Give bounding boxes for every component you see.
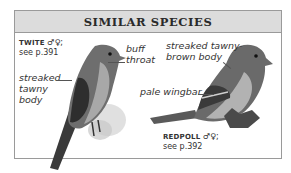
- twite-sex-symbols: ♂♀;: [47, 38, 63, 47]
- redpoll-caption: REDPOLL ♂♀; see p.392: [163, 132, 219, 152]
- redpoll-name: REDPOLL: [163, 133, 200, 141]
- label-pale-wingbar: pale wingbar: [140, 86, 202, 97]
- label-buff-throat: buff throat: [126, 43, 155, 65]
- label-streaked-tawny-body: streaked tawny body: [19, 72, 61, 105]
- twite-illustration: [40, 38, 140, 173]
- leader-pale-wingbar: [198, 94, 214, 95]
- panel-title: SIMILAR SPECIES: [84, 15, 213, 29]
- twite-caption: TWITE ♂♀; see p.391: [19, 38, 63, 58]
- leader-buff-throat: [108, 62, 125, 63]
- twite-page-ref: see p.391: [19, 48, 58, 57]
- leader-streaked-tawny-body: [56, 80, 72, 81]
- redpoll-page-ref: see p.392: [163, 142, 202, 151]
- panel-header: SIMILAR SPECIES: [15, 11, 281, 33]
- label-streaked-tawny-brown-body: streaked tawny- brown body: [166, 40, 243, 62]
- redpoll-sex-symbols: ♂♀;: [203, 132, 219, 141]
- twite-name: TWITE: [19, 39, 45, 47]
